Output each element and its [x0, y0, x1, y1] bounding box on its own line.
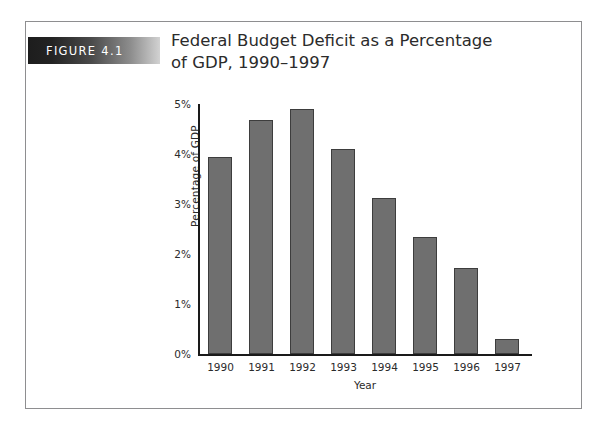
figure-number-banner: FIGURE 4.1: [28, 37, 160, 64]
y-axis-tick-label: 5%: [174, 98, 191, 110]
chart-region: Percentage of GDP 0%1%2%3%4%5% 199019911…: [126, 96, 566, 406]
bar: [495, 339, 519, 354]
bar-slot: [323, 104, 364, 354]
plot-area: 0%1%2%3%4%5% 199019911992199319941995199…: [198, 104, 528, 354]
x-axis-tick-label: 1997: [487, 361, 528, 373]
x-axis-tick-label: 1995: [405, 361, 446, 373]
figure-title: Federal Budget Deficit as a Percentage o…: [171, 30, 571, 74]
y-axis-tick-label: 2%: [174, 248, 191, 260]
bar-slot: [446, 104, 487, 354]
figure-frame: FIGURE 4.1 Federal Budget Deficit as a P…: [25, 21, 582, 409]
y-axis-tick-label: 0%: [174, 348, 191, 360]
figure-number-label: FIGURE 4.1: [28, 44, 124, 58]
bar-slot: [200, 104, 241, 354]
bar: [208, 157, 232, 355]
figure-header: FIGURE 4.1 Federal Budget Deficit as a P…: [26, 30, 581, 90]
bar: [413, 237, 437, 355]
x-axis-tick-label: 1992: [282, 361, 323, 373]
bar: [454, 268, 478, 354]
bar: [290, 109, 314, 354]
figure-title-line-2: of GDP, 1990–1997: [171, 52, 571, 74]
bar-slot: [405, 104, 446, 354]
y-axis-tick-label: 1%: [174, 298, 191, 310]
bar-slot: [241, 104, 282, 354]
bar-slot: [282, 104, 323, 354]
x-axis-tick-label: 1996: [446, 361, 487, 373]
x-axis-tick-label: 1994: [364, 361, 405, 373]
figure-title-line-1: Federal Budget Deficit as a Percentage: [171, 30, 571, 52]
x-axis-tick-label: 1990: [200, 361, 241, 373]
x-axis-line: [198, 354, 532, 356]
bar-slot: [364, 104, 405, 354]
x-axis-title: Year: [198, 379, 532, 391]
bar: [372, 198, 396, 354]
bar-series: [200, 104, 528, 354]
bar: [249, 120, 273, 354]
bar: [331, 149, 355, 354]
bar-slot: [487, 104, 528, 354]
x-axis-tick-label: 1991: [241, 361, 282, 373]
y-axis-tick-label: 4%: [174, 148, 191, 160]
x-axis-tick-label: 1993: [323, 361, 364, 373]
y-axis-tick-label: 3%: [174, 198, 191, 210]
